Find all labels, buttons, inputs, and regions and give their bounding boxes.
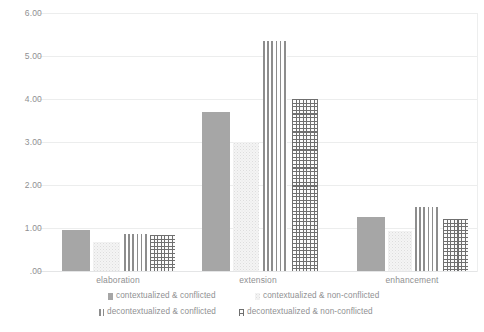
- legend-swatch-crosshatch-icon: [239, 309, 244, 316]
- bar: [357, 217, 385, 271]
- bar: [233, 142, 259, 271]
- legend-item-label: decontextualized & conflicted: [107, 307, 216, 317]
- bar: [415, 207, 440, 272]
- x-axis-category-label: elaboration: [96, 275, 140, 285]
- legend-swatch-solid-icon: [108, 293, 113, 300]
- x-axis-category-label: extension: [239, 275, 277, 285]
- y-axis-tick-label: 5.00: [25, 52, 42, 61]
- legend-swatch-dotted-icon: [255, 293, 260, 300]
- y-axis-tick-label: 3.00: [25, 138, 42, 147]
- bar: [124, 234, 147, 271]
- y-axis-tick-label: 4.00: [25, 95, 42, 104]
- y-axis-tick-label: .00: [30, 267, 42, 276]
- y-axis-tick-label: 2.00: [25, 181, 42, 190]
- legend-item: contextualized & conflicted: [108, 291, 216, 301]
- bar: [93, 242, 120, 271]
- plot-right-border: [477, 13, 478, 272]
- bar: [388, 231, 412, 271]
- legend-swatch-striped-icon: [99, 309, 104, 316]
- y-axis-tick-label: 6.00: [25, 9, 42, 18]
- x-axis-category-label: enhancement: [385, 275, 438, 285]
- bar: [202, 112, 230, 271]
- legend-item: contextualized & non-conflicted: [255, 291, 379, 301]
- legend-item-label: contextualized & conflicted: [116, 291, 216, 301]
- legend-item-label: contextualized & non-conflicted: [263, 291, 379, 301]
- bar: [443, 219, 468, 271]
- gridline: [38, 13, 477, 14]
- gridline: [38, 99, 477, 100]
- bar: [263, 41, 287, 271]
- axis-baseline: [38, 271, 477, 272]
- y-axis-tick-label: 1.00: [25, 224, 42, 233]
- gridline: [38, 56, 477, 57]
- bar: [150, 235, 175, 271]
- legend-item: decontextualized & non-conflicted: [239, 307, 373, 317]
- bar: [62, 230, 90, 271]
- bar: [292, 99, 318, 271]
- grouped-bar-chart: 6.00 5.00 4.00 3.00 2.00 1.00 .00 elabor…: [0, 0, 484, 332]
- legend-item-label: decontextualized & non-conflicted: [247, 307, 373, 317]
- legend-item: decontextualized & conflicted: [99, 307, 216, 317]
